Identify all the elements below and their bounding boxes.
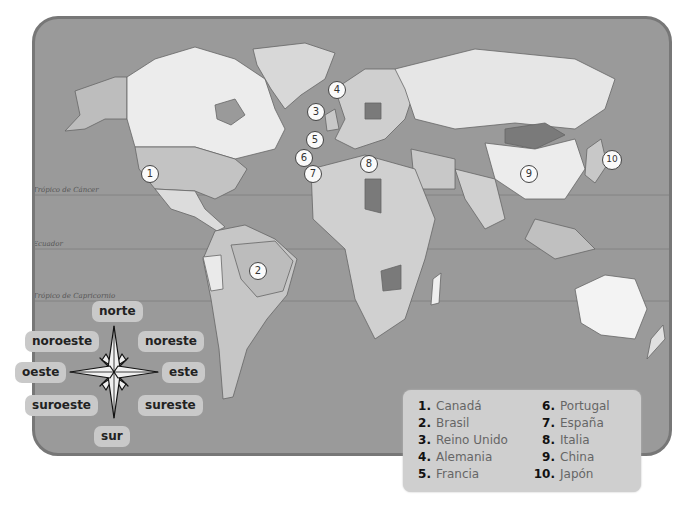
marker-japan[interactable]: 10 [602,150,622,170]
legend-item: 3.Reino Unido [409,432,508,449]
australia [575,275,647,339]
marker-uk[interactable]: 3 [307,103,325,121]
compass-rose-icon [68,324,160,420]
marker-italy[interactable]: 8 [360,155,378,173]
legend-item: 4.Alemania [409,449,508,466]
tropic-of-capricorn-label: Trópico de Capricornio [33,292,115,300]
legend-item: 6.Portugal [533,398,610,415]
marker-brazil[interactable]: 2 [249,262,267,280]
alaska [65,77,127,131]
equator-label: Ecuador [33,240,63,248]
madagascar [431,273,441,305]
new-zealand [647,325,665,359]
poland [365,103,381,119]
legend-item: 9.China [533,449,610,466]
russia [395,49,615,129]
uk [325,109,339,131]
southeast-asia [525,219,595,259]
legend-item: 10.Japón [533,466,610,483]
legend-item: 5.Francia [409,466,508,483]
compass-label-east: este [162,362,205,383]
legend-item: 7.España [533,415,610,432]
country-legend: 1.Canadá 2.Brasil 3.Reino Unido 4.Aleman… [403,390,641,492]
marker-china[interactable]: 9 [520,165,538,183]
legend-column-right: 6.Portugal 7.España 8.Italia 9.China 10.… [533,398,610,483]
marker-spain[interactable]: 7 [304,165,322,183]
marker-germany[interactable]: 4 [328,81,346,99]
compass-label-west: oeste [15,362,66,383]
compass-label-north: norte [92,301,143,322]
legend-item: 2.Brasil [409,415,508,432]
legend-item: 8.Italia [533,432,610,449]
tropic-of-cancer-label: Trópico de Cáncer [33,186,99,194]
legend-item: 1.Canadá [409,398,508,415]
compass-label-south: sur [94,426,130,447]
marker-france[interactable]: 5 [306,131,324,149]
legend-column-left: 1.Canadá 2.Brasil 3.Reino Unido 4.Aleman… [409,398,508,483]
chad [365,179,381,213]
marker-canada[interactable]: 1 [141,165,159,183]
